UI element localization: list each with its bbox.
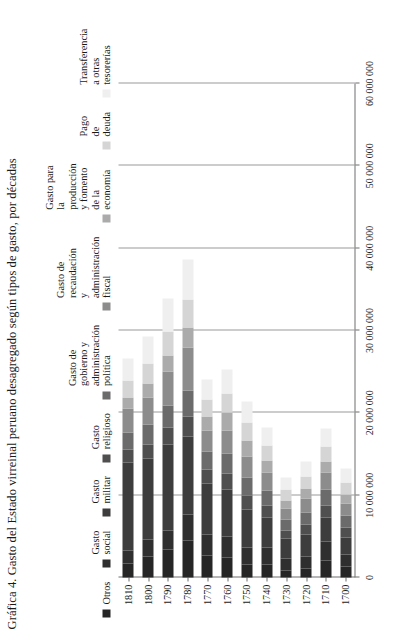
figure-page: Gráfica 4. Gasto del Estado virreinal pe… (0, 0, 413, 635)
bar-segment (280, 570, 291, 577)
value-tick-label: 30 000 000 (363, 308, 374, 353)
category-tick-label: 1770 (201, 584, 212, 605)
bar-row (162, 298, 173, 577)
bar-segment (162, 331, 173, 355)
bar-segment (182, 540, 193, 577)
figure-canvas: Gráfica 4. Gasto del Estado virreinal pe… (0, 0, 413, 635)
category-tick (128, 577, 129, 581)
bar-segment (261, 505, 272, 517)
bar-segment (241, 547, 252, 564)
legend-swatch-icon (102, 141, 110, 149)
bar-segment (182, 514, 193, 540)
bar-segment (241, 422, 252, 440)
value-tick (355, 247, 359, 248)
bar-segment (221, 489, 232, 536)
legend-item-label: Gasto social (89, 530, 112, 554)
bar-segment (142, 539, 153, 556)
bar-segment (221, 412, 232, 429)
bar-segment (280, 558, 291, 570)
legend-swatch-icon (102, 302, 110, 310)
bar-segment (261, 445, 272, 460)
bar-segment (320, 560, 331, 577)
category-tick (187, 577, 188, 581)
bar-segment (221, 430, 232, 453)
legend-swatch-icon (102, 508, 110, 516)
category-tick (306, 577, 307, 581)
value-tick (355, 329, 359, 330)
bar-segment (261, 460, 272, 472)
bar-segment (300, 524, 311, 534)
bar-segment (340, 494, 351, 503)
bar-segment (241, 564, 252, 577)
chart-plot-area: 010 000 00020 000 00030 000 00040 000 00… (118, 83, 355, 577)
bar-segment (241, 440, 252, 456)
bar-segment (122, 432, 133, 449)
bar-segment (221, 393, 232, 413)
category-tick-label: 1750 (241, 584, 252, 605)
bar-row (142, 336, 153, 577)
bar-segment (340, 527, 351, 537)
bar-segment (142, 458, 153, 540)
category-tick (207, 577, 208, 581)
chart-legend: OtrosGasto socialGasto militarGasto reli… (26, 17, 112, 617)
category-tick (345, 577, 346, 581)
bar-segment (340, 468, 351, 482)
bar-segment (162, 355, 173, 371)
bar-segment (221, 536, 232, 557)
bar-segment (162, 427, 173, 443)
bar-row (320, 428, 331, 577)
category-tick-label: 1810 (122, 584, 133, 605)
bar-segment (122, 397, 133, 409)
bar-segment (201, 416, 212, 430)
gridline (118, 247, 355, 248)
bar-segment (261, 517, 272, 547)
bar-segment (340, 503, 351, 515)
bar-segment (340, 537, 351, 554)
legend-item-label: Gasto religioso (89, 413, 112, 449)
gridline (118, 82, 355, 83)
bar-segment (182, 259, 193, 299)
category-tick-label: 1710 (320, 584, 331, 605)
bar-segment (201, 399, 212, 415)
bar-segment (122, 408, 133, 432)
bar-segment (182, 299, 193, 327)
category-tick (286, 577, 287, 581)
category-tick (148, 577, 149, 581)
bar-row (340, 468, 351, 577)
category-tick-label: 1760 (221, 584, 232, 605)
legend-item: Gasto de recaudación y administración fi… (54, 236, 112, 310)
bar-segment (280, 508, 291, 520)
bar-segment (142, 363, 153, 383)
legend-item-label: Gasto militar (89, 476, 112, 503)
legend-item: Gasto para la producción y fomento de la… (43, 163, 112, 222)
bar-segment (162, 530, 173, 549)
bar-segment (221, 369, 232, 393)
category-tick-label: 1700 (340, 584, 351, 605)
bar-segment (261, 490, 272, 506)
bar-segment (280, 538, 291, 558)
legend-item: Gasto social (89, 530, 112, 567)
legend-item: Transferencia a otras tesorerías (77, 28, 112, 97)
value-tick (355, 576, 359, 577)
bar-segment (340, 482, 351, 494)
bar-segment (261, 547, 272, 563)
legend-item: Gasto militar (89, 476, 112, 516)
bar-segment (300, 488, 311, 498)
bar-segment (340, 515, 351, 527)
legend-item-label: Gasto para la producción y fomento de la… (43, 163, 112, 209)
bar-segment (241, 509, 252, 547)
legend-swatch-icon (102, 454, 110, 462)
bar-segment (142, 383, 153, 397)
bar-segment (201, 451, 212, 469)
bar-segment (320, 472, 331, 488)
bar-segment (142, 444, 153, 458)
bar-segment (340, 566, 351, 577)
figure-title: Gráfica 4. Gasto del Estado virreinal pe… (4, 5, 19, 629)
bar-segment (280, 530, 291, 538)
value-tick (355, 494, 359, 495)
bar-segment (261, 472, 272, 489)
value-tick-label: 40 000 000 (363, 225, 374, 270)
category-tick-label: 1780 (182, 584, 193, 605)
legend-item-label: Transferencia a otras tesorerías (77, 28, 112, 84)
legend-item-label: Gasto de gobierno y administración polít… (66, 324, 112, 385)
